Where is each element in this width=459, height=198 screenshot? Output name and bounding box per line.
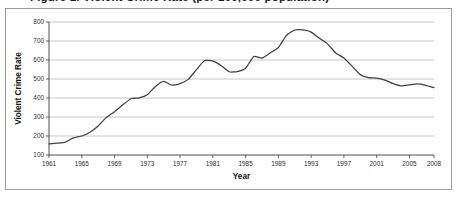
y-tick-label: 200: [33, 132, 44, 139]
x-tick-labels: 1961196519691973197719811985198919931997…: [42, 160, 442, 167]
x-tick-label: 1993: [304, 160, 319, 167]
x-tick-label: 1989: [271, 160, 286, 167]
x-tick-label: 1977: [173, 160, 188, 167]
y-tick-label: 500: [33, 75, 44, 82]
y-tick-label: 600: [33, 56, 44, 63]
y-tick-label: 800: [33, 18, 44, 25]
y-tick-label: 300: [33, 113, 44, 120]
x-tick-label: 2001: [370, 160, 385, 167]
x-tick-label: 2005: [402, 160, 417, 167]
x-tick-label: 1969: [107, 160, 122, 167]
chart-svg: 100200300400500600700800 196119651969197…: [0, 0, 459, 198]
line-chart: 100200300400500600700800 196119651969197…: [0, 0, 459, 198]
x-tick-label: 1997: [337, 160, 352, 167]
x-axis-title: Year: [233, 172, 251, 181]
x-tick-label: 2008: [427, 160, 442, 167]
y-axis-title: Violent Crime Rate: [14, 52, 23, 125]
gridlines: [49, 22, 434, 136]
x-tick-label: 1973: [140, 160, 155, 167]
x-tick-label: 1981: [206, 160, 221, 167]
x-tick-label: 1965: [75, 160, 90, 167]
violent-crime-rate-line: [49, 30, 434, 144]
y-tick-labels: 100200300400500600700800: [33, 18, 44, 158]
y-tick-label: 100: [33, 151, 44, 158]
y-tick-label: 700: [33, 37, 44, 44]
x-tick-label: 1961: [42, 160, 57, 167]
x-tick-label: 1985: [238, 160, 253, 167]
y-tick-label: 400: [33, 94, 44, 101]
